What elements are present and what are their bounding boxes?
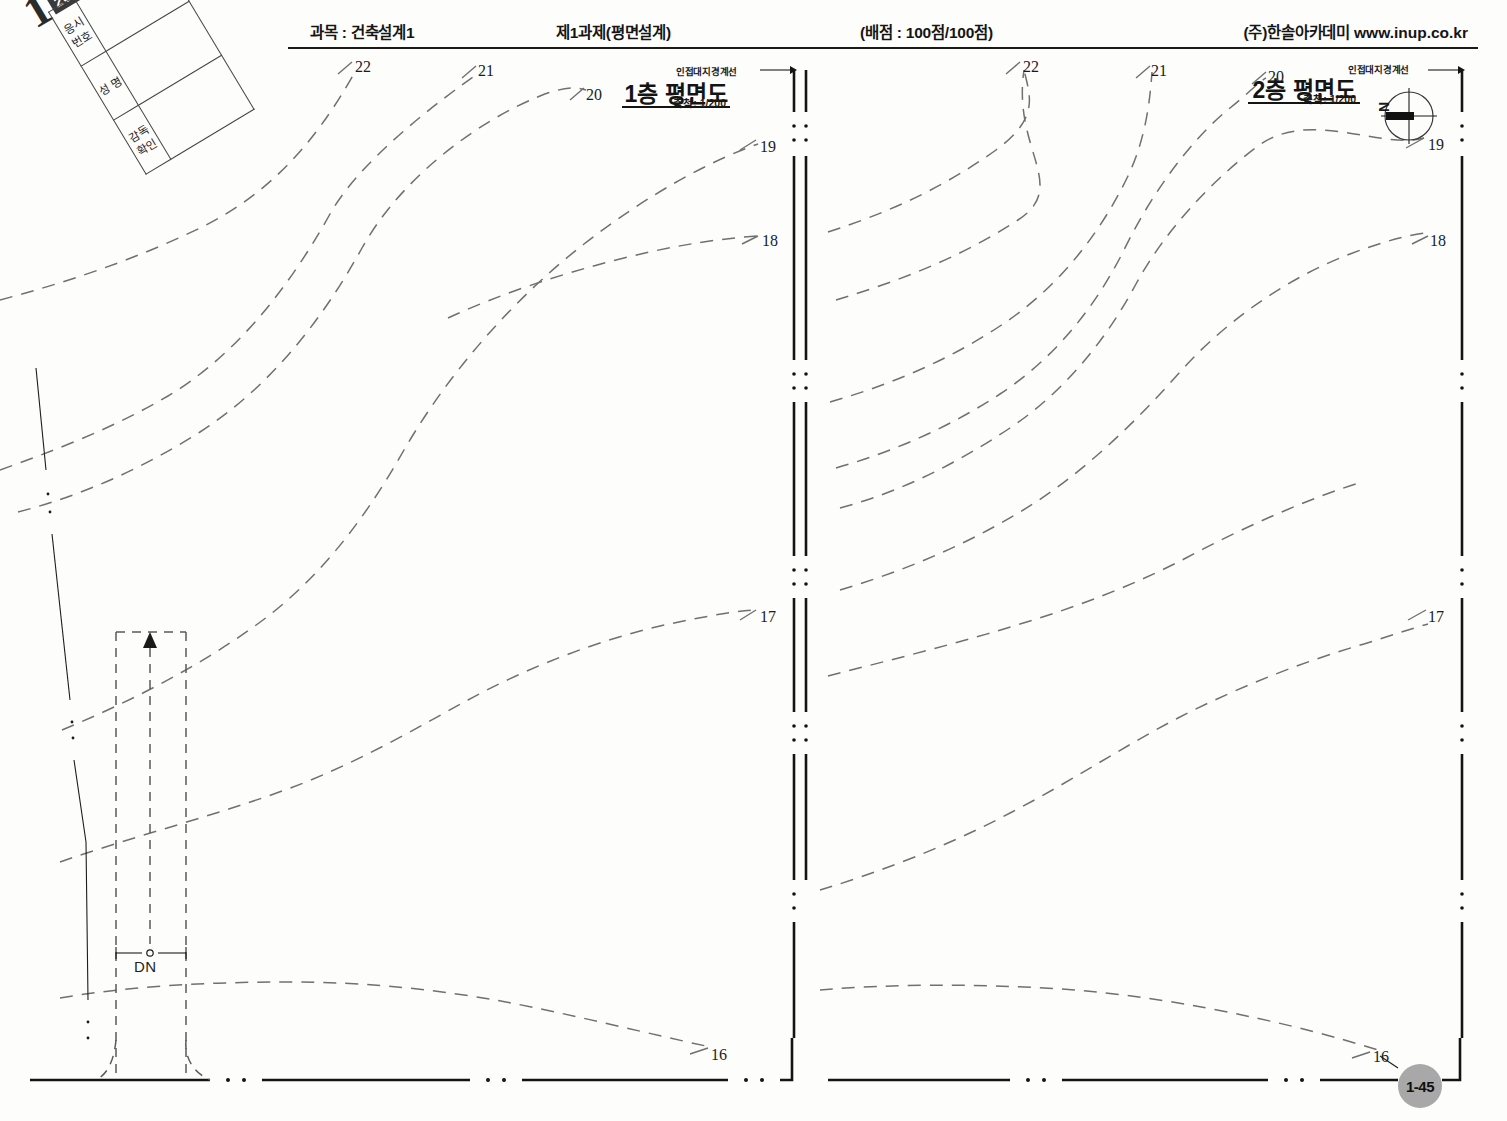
boundary-note-1: 인접대지경계선	[676, 64, 737, 78]
header-brand: (주)한솔아카데미 www.inup.co.kr	[1243, 20, 1468, 42]
sheet-header: 과목 : 건축설계1 제1과제(평면설계) (배점 : 100점/100점) (…	[288, 12, 1478, 50]
site-contour-drawing: .contour { fill:none; stroke:#707070; st…	[0, 0, 1507, 1121]
right-site-boundary-east	[1428, 66, 1465, 1038]
left-site-boundary-south	[30, 1038, 792, 1082]
north-arrow-label: N	[1376, 102, 1392, 112]
contour-elevation-label-right-17: 17	[1428, 608, 1444, 626]
plan-title-block-1: 1층 평면도 축척: 1/200	[622, 82, 730, 110]
contour-elevation-label-left-22: 22	[355, 58, 371, 76]
contour-elevation-label-left-19: 19	[760, 138, 776, 156]
right-contour-leaders	[1006, 62, 1428, 1068]
right-site-boundary-west	[804, 70, 808, 880]
brand-name: (주)한솔아카데미	[1243, 24, 1350, 41]
brand-url: www.inup.co.kr	[1354, 24, 1468, 41]
right-plan-contours	[820, 70, 1432, 1050]
boundary-note-2: 인접대지경계선	[1348, 62, 1409, 76]
contour-elevation-label-right-20: 20	[1268, 68, 1284, 86]
right-site-boundary-south	[828, 1038, 1460, 1082]
stair-down-label: DN	[134, 958, 157, 975]
contour-elevation-label-right-21: 21	[1151, 62, 1167, 80]
exam-id-block: 1 2012 응시번호 성 명 감독확인	[10, 0, 220, 234]
header-divider-rule	[288, 47, 1478, 49]
page-number-badge: 1-45	[1398, 1064, 1442, 1108]
header-score: (배점 : 100점/100점)	[860, 20, 993, 42]
contour-elevation-label-left-20: 20	[586, 86, 602, 104]
left-site-boundary-east	[760, 66, 797, 1038]
exam-id-table: 응시번호 성 명 감독확인	[48, 0, 255, 175]
stair-down-marker	[96, 632, 210, 1080]
drawing-sheet: 1 2012 응시번호 성 명 감독확인 과목 : 건축설계1	[0, 0, 1507, 1121]
contour-elevation-label-left-21: 21	[478, 62, 494, 80]
plan-title-block-2: 2층 평면도 축척: 1/200	[1248, 78, 1360, 106]
contour-elevation-label-right-22: 22	[1023, 58, 1039, 76]
contour-elevation-label-right-19: 19	[1428, 136, 1444, 154]
header-task: 제1과제(평면설계)	[556, 20, 671, 42]
header-subject: 과목 : 건축설계1	[310, 20, 414, 42]
left-site-boundary-west	[36, 368, 89, 1039]
contour-elevation-label-right-18: 18	[1430, 232, 1446, 250]
contour-elevation-label-left-16: 16	[711, 1046, 727, 1064]
contour-elevation-label-left-18: 18	[762, 232, 778, 250]
left-contour-leaders	[338, 62, 758, 1054]
contour-elevation-label-left-17: 17	[760, 608, 776, 626]
contour-elevation-label-right-16: 16	[1373, 1048, 1389, 1066]
